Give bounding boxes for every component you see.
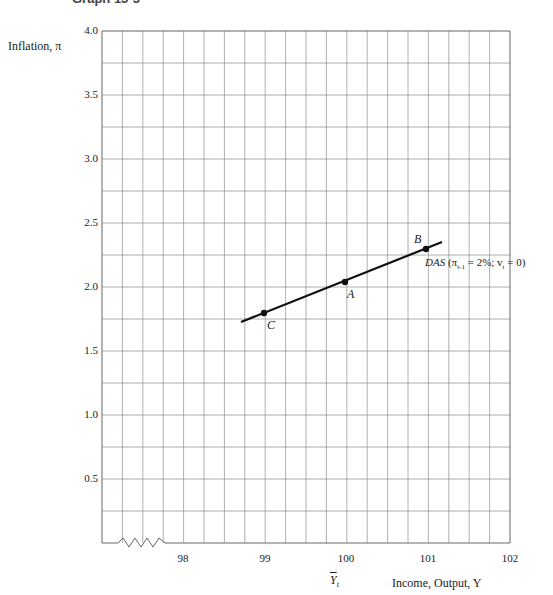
point-a-label: A	[347, 287, 354, 302]
x-tick-101: 101	[408, 552, 448, 564]
grid-lines	[102, 31, 510, 543]
x-tick-99: 99	[245, 552, 285, 564]
x-axis-title: Income, Output, Y	[392, 576, 482, 591]
point-b-marker	[423, 246, 429, 252]
point-c-label: C	[267, 318, 275, 333]
point-a-marker	[342, 279, 348, 285]
x-tick-102: 102	[490, 552, 530, 564]
das-curve-label: DAS (πt-1 = 2%; vt = 0)	[425, 256, 525, 271]
das-curve	[241, 242, 442, 322]
potential-output-marker: Yt	[330, 573, 339, 589]
x-tick-98: 98	[163, 552, 203, 564]
point-b-label: B	[414, 232, 421, 247]
das-name: DAS	[425, 256, 445, 268]
point-c-marker	[261, 310, 267, 316]
x-tick-100: 100	[326, 552, 366, 564]
chart-plot-area	[0, 0, 553, 595]
